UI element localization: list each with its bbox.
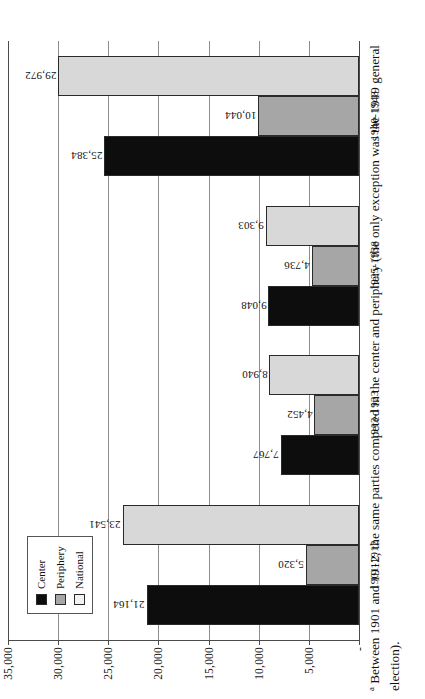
legend-item-label: Center [35,560,47,589]
legend-item-label: Periphery [54,546,66,589]
axis-tick [209,640,210,645]
bar-value-label: 9,303 [238,220,264,232]
axis-tick-label: 30,000 [52,647,64,680]
legend-item-national: National [73,546,85,605]
bar-center: 7,767 [281,435,359,475]
axis-tick [309,640,310,645]
footnote-marker: a [366,687,376,691]
bar-periphery: 5,320 [306,545,359,585]
bar-group: 9,0484,7369,3031925-1938 [8,191,359,341]
bar-national: 9,303 [266,206,359,246]
figure-page: 35,00030,00025,00020,00015,00010,0005,00… [0,0,425,699]
axis-tick-label: 10,000 [253,647,265,680]
bar-periphery: 4,736 [312,246,359,286]
axis-tick-label: 5,000 [303,647,315,674]
axis-tick [259,640,260,645]
bar-value-label: 23,541 [89,519,120,531]
national-swatch-icon [74,594,85,605]
bar-value-label: 4,452 [287,409,313,421]
bar-center: 9,048 [268,286,359,326]
bar-national: 23,541 [123,505,359,545]
center-swatch-icon [36,594,47,605]
chart-legend: CenterPeripheryNational [27,536,93,614]
bar-national: 8,940 [269,356,359,396]
bar-value-label: 7,767 [253,449,279,461]
bar-value-label: 25,384 [71,150,102,162]
axis-tick-label: 15,000 [203,647,215,680]
bar-value-label: 21,164 [113,599,144,611]
axis-tick [58,640,59,645]
bar-value-label: 29,972 [25,70,56,82]
bar-group: 25,38410,04429,9721940-1948 [8,41,359,191]
bar-national: 29,972 [58,56,359,96]
axis-tick [8,640,9,645]
rotated-figure-wrapper: 35,00030,00025,00020,00015,00010,0005,00… [0,0,425,699]
bar-periphery: 10,044 [258,96,359,136]
axis-tick-label: 20,000 [152,647,164,680]
axis-tick-label: 25,000 [102,647,114,680]
chart-figure: 35,00030,00025,00020,00015,00010,0005,00… [0,0,425,699]
bar-value-label: 4,736 [284,260,310,272]
bar-value-label: 5,320 [278,559,304,571]
bar-value-label: 10,044 [225,110,256,122]
bar-value-label: 8,940 [242,369,268,381]
footnote: a Between 1901 and 1912, the same partie… [365,31,404,691]
footnote-text: Between 1901 and 1912, the same parties … [367,45,401,691]
legend-item-periphery: Periphery [54,546,66,605]
bar-center: 21,164 [147,585,359,625]
legend-item-label: National [73,551,85,589]
bar-value-label: 9,048 [241,300,267,312]
axis-tick [108,640,109,645]
axis-tick [359,640,360,645]
axis-tick [158,640,159,645]
legend-item-center: Center [35,546,47,605]
periphery-swatch-icon [55,594,66,605]
bar-periphery: 4,452 [314,395,359,435]
bar-center: 25,384 [104,136,359,176]
axis-tick-label: - [353,647,365,651]
axis-tick-label: 35,000 [2,647,14,680]
bar-group: 7,7674,4528,9401913-1923 [8,341,359,491]
rotated-footnote-wrapper: a Between 1901 and 1912, the same partie… [365,0,425,699]
